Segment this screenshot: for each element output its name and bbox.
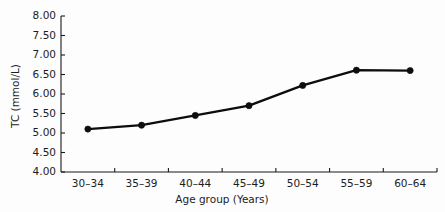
data-point-marker [407, 68, 413, 74]
series-line-tc [88, 70, 410, 129]
y-tick-label: 4.50 [33, 146, 56, 158]
y-tick-label: 7.50 [33, 29, 56, 41]
data-point-marker [246, 103, 252, 109]
x-tick-labels: 30–3435–3940–4445–4950–5455–5960–64 [72, 177, 427, 189]
line-chart-plot: 4.004.505.005.506.006.507.007.508.00 30–… [0, 0, 445, 212]
x-axis-ticks [115, 168, 437, 172]
x-tick-label: 45–49 [233, 177, 265, 189]
data-point-marker [85, 126, 91, 132]
x-tick-label: 55–59 [340, 177, 372, 189]
y-axis-title: TC (mmol/L) [9, 64, 21, 129]
y-axis-ticks [61, 16, 65, 172]
x-axis-title: Age group (Years) [175, 193, 268, 205]
data-point-marker [353, 67, 359, 73]
y-tick-label: 5.00 [33, 126, 56, 138]
y-tick-label: 7.00 [33, 48, 56, 60]
y-tick-labels: 4.004.505.005.506.006.507.007.508.00 [33, 9, 56, 177]
x-tick-label: 30–34 [72, 177, 104, 189]
data-point-marker [192, 112, 198, 118]
data-point-marker [300, 82, 306, 88]
y-tick-label: 4.00 [33, 165, 56, 177]
y-tick-label: 6.00 [33, 87, 56, 99]
y-tick-label: 6.50 [33, 68, 56, 80]
y-tick-label: 8.00 [33, 9, 56, 21]
series-markers [85, 67, 413, 132]
data-point-marker [138, 122, 144, 128]
x-tick-label: 40–44 [179, 177, 211, 189]
x-tick-label: 35–39 [126, 177, 158, 189]
y-tick-label: 5.50 [33, 107, 56, 119]
chart-figure: 4.004.505.005.506.006.507.007.508.00 30–… [0, 0, 445, 212]
x-tick-label: 50–54 [287, 177, 319, 189]
x-tick-label: 60–64 [394, 177, 426, 189]
